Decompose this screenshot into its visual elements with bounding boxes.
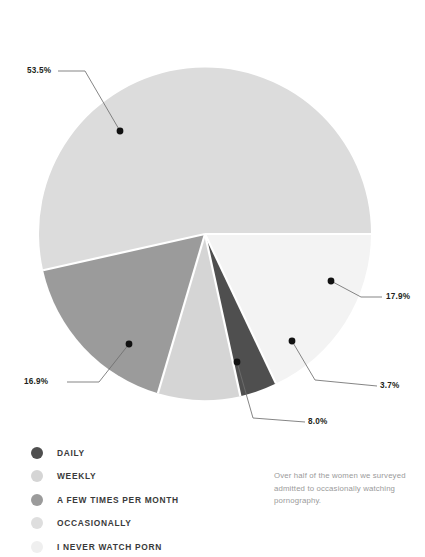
legend-label-daily: Daily	[57, 448, 85, 458]
legend-item-a-few-times-per-month: A Few Times Per Month	[31, 488, 261, 512]
legend-item-occasionally: Occasionally	[31, 512, 261, 536]
pie-chart	[0, 0, 425, 440]
legend-swatch-occasionally	[31, 517, 43, 529]
pie-label-a-few-times-per-month: 16.9%	[24, 377, 48, 386]
pie-label-occasionally: 17.9%	[386, 292, 410, 301]
legend-item-i-never-watch-porn: I Never Watch Porn	[31, 535, 261, 557]
legend-swatch-a-few-times-per-month	[31, 494, 43, 506]
dot-occasionally	[328, 278, 335, 285]
legend-item-daily: Daily	[31, 441, 261, 465]
pie-final	[0, 0, 425, 440]
legend-label-a-few-times-per-month: A Few Times Per Month	[57, 495, 179, 505]
dot-never	[117, 128, 124, 135]
pie-label-i-never-watch-porn: 53.5%	[27, 66, 51, 75]
pie-label-weekly: 8.0%	[308, 417, 327, 426]
dot-weekly	[234, 359, 241, 366]
chart-caption: Over half of the women we surveyed admit…	[274, 470, 410, 508]
dot-daily	[289, 338, 296, 345]
legend-label-i-never-watch-porn: I Never Watch Porn	[57, 542, 162, 552]
legend-swatch-weekly	[31, 470, 43, 482]
chart-legend: Daily Weekly A Few Times Per Month Occas…	[31, 441, 261, 557]
legend-swatch-i-never-watch-porn	[31, 541, 43, 553]
legend-label-occasionally: Occasionally	[57, 518, 132, 528]
legend-label-weekly: Weekly	[57, 471, 96, 481]
legend-swatch-daily	[31, 447, 43, 459]
pie-label-daily: 3.7%	[380, 381, 399, 390]
dot-a-few	[126, 341, 133, 348]
legend-item-weekly: Weekly	[31, 465, 261, 489]
